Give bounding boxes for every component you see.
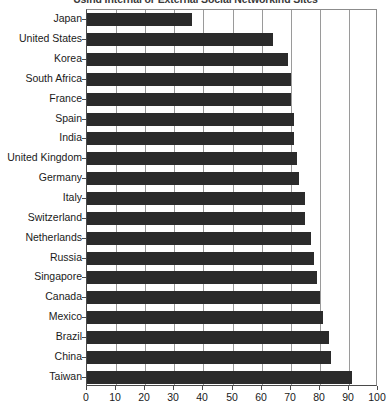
category-label: South Africa	[0, 72, 82, 85]
value-tick-60	[261, 386, 262, 390]
value-tick-label: 80	[304, 391, 334, 404]
value-tick-label: 20	[129, 391, 159, 404]
category-label: Italy	[0, 191, 82, 204]
value-tick-10	[115, 386, 116, 390]
category-label: Japan	[0, 12, 82, 25]
bar	[87, 371, 352, 384]
bar	[87, 311, 323, 324]
category-label: Canada	[0, 290, 82, 303]
value-tick-label: 100	[362, 391, 391, 404]
value-tick-100	[377, 386, 378, 390]
value-tick-label: 0	[71, 391, 101, 404]
value-tick-70	[290, 386, 291, 390]
bar	[87, 331, 329, 344]
value-tick-label: 30	[158, 391, 188, 404]
category-label: Switzerland	[0, 211, 82, 224]
category-label: Spain	[0, 112, 82, 125]
bar	[87, 172, 299, 185]
category-label: Russia	[0, 251, 82, 264]
category-label: China	[0, 350, 82, 363]
bar	[87, 192, 305, 205]
plot-area	[86, 9, 377, 386]
value-tick-label: 10	[100, 391, 130, 404]
bar	[87, 132, 294, 145]
value-tick-30	[173, 386, 174, 390]
value-tick-label: 90	[333, 391, 363, 404]
value-tick-80	[319, 386, 320, 390]
bar-chart: Using Internal or External Social Networ…	[0, 0, 391, 405]
value-tick-label: 50	[217, 391, 247, 404]
category-label: United States	[0, 32, 82, 45]
bar	[87, 53, 288, 66]
bar	[87, 291, 320, 304]
category-label: Brazil	[0, 330, 82, 343]
value-tick-label: 70	[275, 391, 305, 404]
category-label: Netherlands	[0, 231, 82, 244]
bar	[87, 13, 192, 26]
value-tick-90	[348, 386, 349, 390]
value-tick-label: 60	[246, 391, 276, 404]
bar	[87, 232, 311, 245]
bar	[87, 33, 273, 46]
category-label: Mexico	[0, 310, 82, 323]
category-label: Germany	[0, 171, 82, 184]
value-tick-50	[232, 386, 233, 390]
bars-group	[87, 10, 376, 385]
category-axis: JapanUnited StatesKoreaSouth AfricaFranc…	[0, 9, 82, 386]
category-label: Singapore	[0, 270, 82, 283]
bar	[87, 351, 331, 364]
bar	[87, 93, 291, 106]
category-label: France	[0, 92, 82, 105]
category-label: United Kingdom	[0, 151, 82, 164]
value-tick-0	[86, 386, 87, 390]
chart-title: Using Internal or External Social Networ…	[0, 0, 391, 3]
category-label: India	[0, 131, 82, 144]
bar	[87, 73, 291, 86]
value-axis: 0102030405060708090100	[86, 386, 377, 405]
category-label: Taiwan	[0, 370, 82, 383]
value-tick-20	[144, 386, 145, 390]
value-tick-label: 40	[187, 391, 217, 404]
value-tick-40	[202, 386, 203, 390]
bar	[87, 152, 297, 165]
bar	[87, 252, 314, 265]
bar	[87, 113, 294, 126]
category-label: Korea	[0, 52, 82, 65]
bar	[87, 212, 305, 225]
bar	[87, 271, 317, 284]
